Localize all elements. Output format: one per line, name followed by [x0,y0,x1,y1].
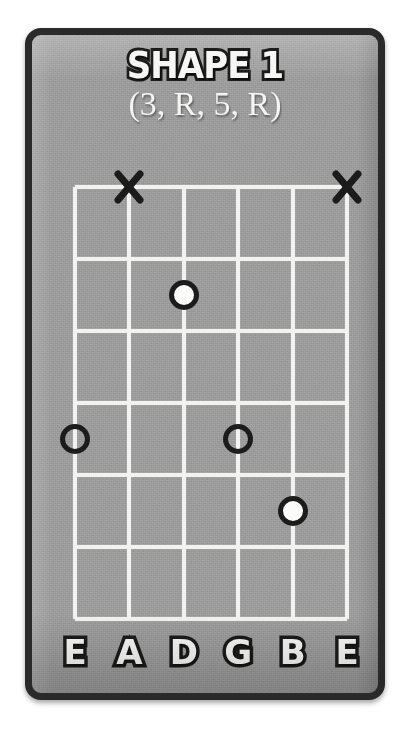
string-labels-row: EADGBE [75,635,347,687]
string-label-1-a: A [116,635,142,669]
marker-g-fret4 [223,424,253,454]
string-label-5-e: E [335,635,358,669]
chord-diagram-card: SHAPE 1 (3, R, 5, R) EADGBE [25,28,385,700]
string-label-3-g: G [224,635,252,669]
fret-line-4 [75,473,347,477]
string-label-0-e: E [63,635,86,669]
marker-low-e-fret4 [60,424,90,454]
title-block: SHAPE 1 (3, R, 5, R) [32,47,378,122]
fret-line-1 [75,257,347,261]
string-label-4-b: B [280,635,306,669]
fret-line-6 [75,617,347,621]
shape-title: SHAPE 1 [46,47,364,84]
marker-d-fret2 [169,280,199,310]
fret-line-2 [75,329,347,333]
marker-b-fret5 [278,496,308,526]
shape-subtitle-intervals: (3, R, 5, R) [32,86,378,122]
string-label-2-d: D [170,635,198,669]
fret-line-3 [75,401,347,405]
mute-x-string-a [112,170,146,204]
fretboard-grid [75,187,347,619]
mute-x-string-high-e [330,170,364,204]
fret-line-5 [75,545,347,549]
